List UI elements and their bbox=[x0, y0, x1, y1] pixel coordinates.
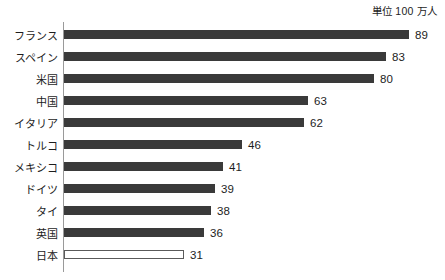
table-row: フランス89 bbox=[0, 24, 445, 46]
bar[interactable] bbox=[64, 228, 204, 237]
bar-value-label: 39 bbox=[221, 178, 234, 200]
table-row: タイ38 bbox=[0, 200, 445, 222]
category-label: スペイン bbox=[0, 46, 58, 68]
bar-value-label: 46 bbox=[248, 134, 261, 156]
category-label: 日本 bbox=[0, 244, 58, 266]
bar[interactable] bbox=[64, 52, 386, 61]
bar-value-label: 63 bbox=[314, 90, 327, 112]
table-row: イタリア62 bbox=[0, 112, 445, 134]
bar-value-label: 41 bbox=[229, 156, 242, 178]
category-label: 米国 bbox=[0, 68, 58, 90]
category-label: タイ bbox=[0, 200, 58, 222]
category-label: ドイツ bbox=[0, 178, 58, 200]
bar[interactable] bbox=[64, 96, 308, 105]
bar[interactable] bbox=[64, 30, 409, 39]
table-row: ドイツ39 bbox=[0, 178, 445, 200]
category-label: メキシコ bbox=[0, 156, 58, 178]
bar-value-label: 83 bbox=[392, 46, 405, 68]
table-row: 米国80 bbox=[0, 68, 445, 90]
table-row: トルコ46 bbox=[0, 134, 445, 156]
bar-value-label: 62 bbox=[310, 112, 323, 134]
bar[interactable] bbox=[64, 140, 242, 149]
bar[interactable] bbox=[64, 184, 215, 193]
bar-value-label: 38 bbox=[217, 200, 230, 222]
unit-caption: 単位 100 万人 bbox=[372, 3, 437, 18]
category-label: イタリア bbox=[0, 112, 58, 134]
category-label: フランス bbox=[0, 24, 58, 46]
bar-chart: 単位 100 万人 フランス89スペイン83米国80中国63イタリア62トルコ4… bbox=[0, 0, 445, 280]
bar[interactable] bbox=[64, 206, 211, 215]
bar-value-label: 36 bbox=[210, 222, 223, 244]
table-row: 中国63 bbox=[0, 90, 445, 112]
category-label: 中国 bbox=[0, 90, 58, 112]
plot-area: フランス89スペイン83米国80中国63イタリア62トルコ46メキシコ41ドイツ… bbox=[0, 22, 445, 274]
table-row: スペイン83 bbox=[0, 46, 445, 68]
bar-value-label: 31 bbox=[190, 244, 203, 266]
bar[interactable] bbox=[64, 250, 184, 259]
bar[interactable] bbox=[64, 162, 223, 171]
table-row: 日本31 bbox=[0, 244, 445, 266]
bar-value-label: 80 bbox=[380, 68, 393, 90]
table-row: メキシコ41 bbox=[0, 156, 445, 178]
bar[interactable] bbox=[64, 74, 374, 83]
bar-value-label: 89 bbox=[415, 24, 428, 46]
category-label: 英国 bbox=[0, 222, 58, 244]
bar[interactable] bbox=[64, 118, 304, 127]
category-label: トルコ bbox=[0, 134, 58, 156]
table-row: 英国36 bbox=[0, 222, 445, 244]
